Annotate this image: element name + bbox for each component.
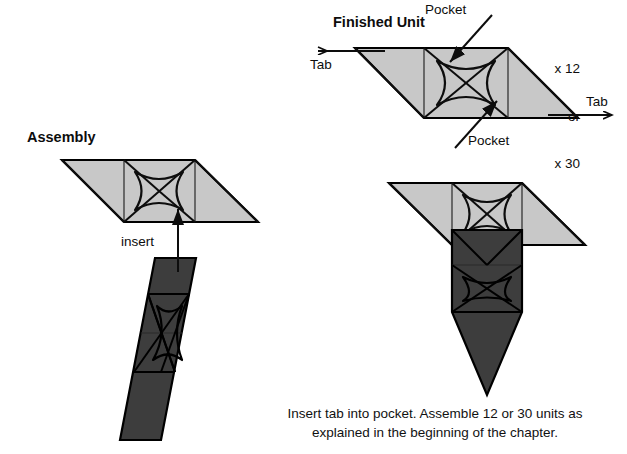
assembly-dark-unit	[120, 258, 196, 440]
unit-count-line-3: x 30	[520, 156, 580, 172]
caption-line-1: Insert tab into pocket. Assemble 12 or 3…	[243, 404, 627, 423]
assembly-light-unit	[62, 160, 258, 222]
tab-right-label: Tab	[586, 94, 608, 110]
unit-count-line-2: or	[520, 109, 580, 125]
joined-dark-unit	[452, 230, 522, 395]
joined-units-illustration	[389, 183, 585, 395]
figure-caption: Insert tab into pocket. Assemble 12 or 3…	[243, 404, 627, 442]
assembly-title: Assembly	[27, 129, 96, 146]
caption-line-2: explained in the beginning of the chapte…	[243, 423, 627, 442]
assembly-illustration	[62, 160, 258, 440]
origami-instruction-figure: Finished Unit Assembly Pocket Pocket Tab…	[0, 0, 627, 454]
insert-label: insert	[121, 234, 154, 250]
unit-count-note: x 12 or x 30	[520, 29, 580, 204]
unit-count-line-1: x 12	[520, 61, 580, 77]
pocket-bottom-label: Pocket	[468, 133, 509, 149]
tab-left-label: Tab	[310, 57, 332, 73]
pocket-top-label: Pocket	[425, 2, 466, 18]
finished-unit-title: Finished Unit	[333, 14, 425, 31]
